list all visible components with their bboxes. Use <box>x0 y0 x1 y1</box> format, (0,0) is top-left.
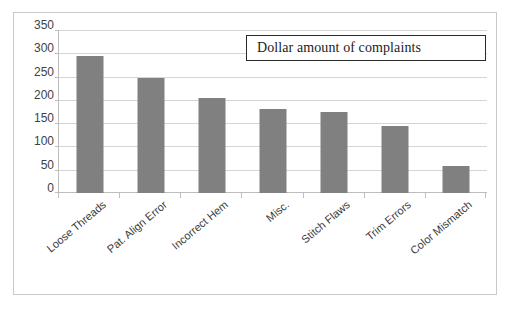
y-tick-label: 150 <box>34 112 54 124</box>
bar-slot <box>120 30 181 193</box>
x-category-label: Color Mismatch <box>409 199 475 257</box>
y-tick-mark <box>55 123 59 124</box>
x-category-label-text: Incorrect Hem <box>170 199 230 252</box>
bar[interactable] <box>443 166 470 193</box>
bar[interactable] <box>259 109 286 193</box>
chart-plot-wrapper: 350300250200150100500 Loose ThreadsPat. … <box>14 13 496 294</box>
y-tick-mark <box>55 170 59 171</box>
bar[interactable] <box>382 126 409 193</box>
x-tick-mark <box>303 193 304 198</box>
bar[interactable] <box>198 98 225 193</box>
x-category-label: Incorrect Hem <box>170 199 230 252</box>
x-category-label-text: Color Mismatch <box>409 199 475 257</box>
bar-slot <box>59 30 120 193</box>
x-category-label: Pat. Align Error <box>105 199 169 255</box>
x-category-label: Misc. <box>264 199 291 224</box>
bar[interactable] <box>321 112 348 194</box>
legend-box: Dollar amount of complaints <box>246 35 486 61</box>
y-tick-label: 200 <box>34 89 54 101</box>
x-category-label: Stitch Flaws <box>300 199 352 246</box>
bar[interactable] <box>76 56 103 193</box>
x-tick-mark <box>241 193 242 198</box>
x-tick-mark <box>425 193 426 198</box>
x-category-label-text: Stitch Flaws <box>300 199 352 246</box>
y-tick-label: 50 <box>41 159 54 171</box>
y-tick-label: 350 <box>34 19 54 31</box>
x-tick-mark <box>180 193 181 198</box>
x-tick-mark <box>364 193 365 198</box>
y-tick-label: 100 <box>34 135 54 147</box>
x-category-label-text: Trim Errors <box>364 199 413 243</box>
x-category-label-text: Loose Threads <box>44 199 107 254</box>
x-category-label: Loose Threads <box>44 199 107 254</box>
x-tick-mark <box>485 193 486 198</box>
y-tick-mark <box>55 30 59 31</box>
x-category-label-text: Misc. <box>264 199 291 224</box>
x-axis-labels: Loose ThreadsPat. Align ErrorIncorrect H… <box>58 199 486 289</box>
x-tick-mark <box>119 193 120 198</box>
y-tick-mark <box>55 100 59 101</box>
y-axis-labels: 350300250200150100500 <box>14 25 56 188</box>
x-category-label: Trim Errors <box>364 199 413 243</box>
y-tick-label: 0 <box>47 182 54 194</box>
y-tick-mark <box>55 146 59 147</box>
legend-label: Dollar amount of complaints <box>247 40 421 56</box>
chart-frame: 350300250200150100500 Loose ThreadsPat. … <box>13 12 497 295</box>
y-tick-mark <box>55 77 59 78</box>
x-tick-mark <box>58 193 59 198</box>
bar[interactable] <box>137 78 164 193</box>
y-tick-label: 250 <box>34 66 54 78</box>
bar-slot <box>181 30 242 193</box>
y-tick-mark <box>55 53 59 54</box>
x-category-label-text: Pat. Align Error <box>105 199 169 255</box>
y-tick-label: 300 <box>34 42 54 54</box>
